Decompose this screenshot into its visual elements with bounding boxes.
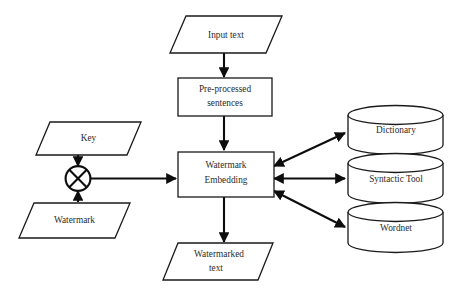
flowchart-canvas: Input text Pre-processed sentences Key W… [0, 0, 460, 290]
node-watermarked-text: Watermarked text [163, 243, 273, 280]
syntactic-tool-cylinder-top [348, 154, 443, 173]
node-key: Key [36, 122, 141, 155]
node-wordnet: Wordnet [348, 203, 443, 253]
edge-embedding-wordnet [274, 191, 345, 227]
node-dictionary: Dictionary [348, 106, 443, 155]
watermark-label: Watermark [54, 215, 95, 225]
watermarked-text-label-line1: Watermarked [194, 249, 244, 259]
input-text-label: Input text [208, 30, 244, 40]
node-syntactic-tool: Syntactic Tool [348, 154, 443, 204]
node-input-text: Input text [170, 16, 282, 53]
node-preprocessed-sentences: Pre-processed sentences [178, 78, 272, 116]
preprocessed-label-line2: sentences [207, 98, 243, 108]
dictionary-label: Dictionary [376, 125, 416, 135]
wordnet-label: Wordnet [380, 223, 412, 233]
node-watermark: Watermark [19, 203, 130, 238]
embedding-label-line1: Watermark [205, 160, 246, 170]
embedding-label-line2: Embedding [205, 175, 248, 185]
syntactic-tool-label: Syntactic Tool [369, 174, 423, 184]
preprocessed-label-line1: Pre-processed [199, 84, 251, 94]
wordnet-cylinder-top [348, 203, 443, 222]
flowchart-diagram: Input text Pre-processed sentences Key W… [0, 0, 460, 290]
watermarked-text-label-line2: text [209, 263, 223, 273]
node-watermark-embedding: Watermark Embedding [178, 152, 274, 197]
dictionary-cylinder-top [348, 106, 443, 125]
edge-embedding-dictionary [274, 133, 345, 166]
node-combine-operator [66, 166, 91, 191]
key-label: Key [81, 133, 97, 143]
